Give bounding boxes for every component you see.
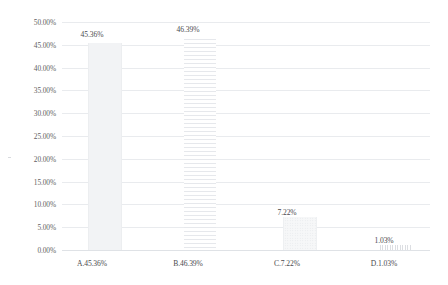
y-tick-label-5: 5.00%: [0, 223, 56, 232]
y-tick-label-50: 50.00%: [0, 18, 56, 27]
category-label-c: C.7.22%: [257, 259, 317, 268]
y-tick-label-0: 0.00%: [0, 246, 56, 255]
bar-c: [283, 217, 317, 250]
y-tick-label-10: 10.00%: [0, 200, 56, 209]
y-tick-label-45: 45.00%: [0, 40, 56, 49]
category-label-d: D.1.03%: [354, 259, 414, 268]
y-tick-label-25: 25.00%: [0, 132, 56, 141]
bar-d: [380, 245, 412, 250]
bar-chart: 50.00% 45.00% 40.00% 35.00% 30.00% 25.00…: [0, 0, 448, 285]
y-tick-label-15: 15.00%: [0, 177, 56, 186]
data-label-b: 46.39%: [164, 25, 212, 34]
y-tick-label-20: 20.00%: [0, 154, 56, 163]
y-tick-label-40: 40.00%: [0, 63, 56, 72]
bar-a: [88, 43, 122, 250]
data-label-a: 45.36%: [68, 30, 116, 39]
y-tick-label-35: 35.00%: [0, 86, 56, 95]
plot-area: [62, 22, 430, 250]
gridline-baseline: [62, 250, 430, 251]
category-label-a: A.45.36%: [62, 259, 122, 268]
data-label-c: 7.22%: [263, 208, 311, 217]
category-label-b: B.46.39%: [158, 259, 218, 268]
gridline-50: [62, 22, 430, 23]
bar-b: [184, 39, 216, 251]
y-tick-label-30: 30.00%: [0, 109, 56, 118]
data-label-d: 1.03%: [360, 236, 408, 245]
